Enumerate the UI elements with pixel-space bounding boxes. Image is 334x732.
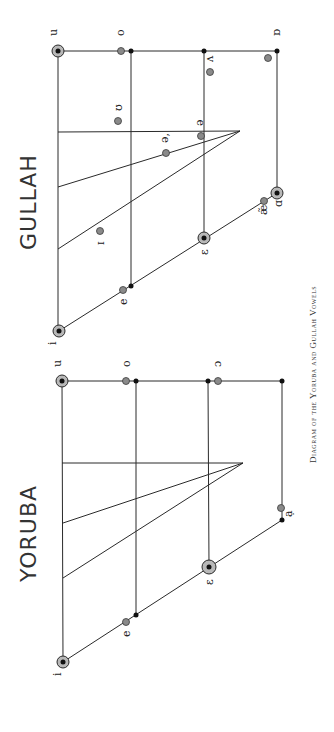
yoruba-ref-dot: [134, 379, 139, 384]
gullah-title: GULLAH: [16, 154, 41, 250]
figure-caption: Diagram of the Yoruba and Gullah Vowels: [308, 286, 318, 463]
ring-center: [60, 379, 65, 384]
yoruba-label-open-o: ɔ: [211, 361, 224, 367]
gullah-e-dot: [120, 287, 127, 294]
gullah-schwa-dot: [198, 133, 205, 140]
ring-center: [275, 191, 280, 196]
yoruba-label-i: i: [51, 672, 64, 676]
yoruba-o-dot: [123, 378, 130, 385]
gullah-triangle-edge: [58, 131, 240, 249]
gullah-ref-dot: [202, 49, 207, 54]
gullah-diagonal-line: [59, 193, 277, 331]
gullah-label-small-i: ɪ: [94, 241, 107, 245]
gullah-triangle-edge: [58, 131, 240, 132]
yoruba-triangle-edge: [63, 463, 243, 523]
yoruba-label-e: e: [120, 630, 133, 637]
yoruba-label-o: o: [120, 360, 133, 367]
gullah-label-schwa2: ə,: [158, 133, 171, 143]
gullah-small-i-dot: [97, 228, 104, 235]
gullah-o-dot: [118, 48, 125, 55]
gullah-label-i: i: [46, 341, 59, 345]
gullah-wedge-dot: [207, 69, 214, 76]
vowel-diagram-canvas: u o ɒ ʌ ʊ ə ə, ɪ e ɛ æ̃ ɑ i GULLAH: [0, 0, 334, 732]
yoruba-left-line: [62, 381, 63, 662]
gullah-ref-dot: [129, 49, 134, 54]
gullah-label-open-o: ɒ: [270, 29, 283, 36]
yoruba-ref-dot: [134, 613, 139, 618]
ring-center: [207, 565, 212, 570]
yoruba-diagonal-line: [63, 520, 282, 662]
gullah-label-u: u: [47, 29, 60, 36]
gullah-ref-dot: [275, 49, 280, 54]
yoruba-diagram: u o ɔ e ɛ ạ i YORUBA: [16, 360, 295, 676]
yoruba-ref-dot: [280, 518, 285, 523]
gullah-label-epsilon: ɛ: [198, 249, 211, 255]
gullah-label-upsilon: ʊ: [112, 104, 125, 111]
gullah-triangle-edge: [58, 131, 240, 187]
ring-center: [56, 49, 61, 54]
ring-center: [61, 660, 66, 665]
yoruba-open-o-dot: [215, 378, 222, 385]
yoruba-ref-dot: [206, 379, 211, 384]
gullah-upsilon-dot: [115, 118, 122, 125]
gullah-schwa2-dot: [163, 150, 170, 157]
yoruba-label-u: u: [51, 360, 64, 367]
yoruba-label-epsilon: ɛ: [203, 579, 216, 585]
yoruba-e-dot: [123, 619, 130, 626]
gullah-label-o: o: [114, 29, 127, 36]
gullah-label-ae: æ̃: [257, 205, 270, 215]
yoruba-ref-dot: [280, 379, 285, 384]
yoruba-triangle-edge: [63, 463, 243, 578]
gullah-label-a: ɑ: [272, 200, 285, 207]
gullah-open-o-dot: [265, 55, 272, 62]
yoruba-label-a: ạ: [282, 510, 295, 517]
gullah-ref-dot: [129, 284, 134, 289]
ring-center: [57, 329, 62, 334]
gullah-label-schwa: ə: [193, 119, 206, 126]
gullah-label-e: e: [117, 298, 130, 305]
ring-center: [202, 236, 207, 241]
gullah-ae-dot: [261, 198, 268, 205]
gullah-label-wedge: ʌ: [203, 55, 216, 63]
yoruba-title: YORUBA: [16, 485, 41, 583]
gullah-diagram: u o ɒ ʌ ʊ ə ə, ɪ e ɛ æ̃ ɑ i GULLAH: [16, 29, 285, 345]
